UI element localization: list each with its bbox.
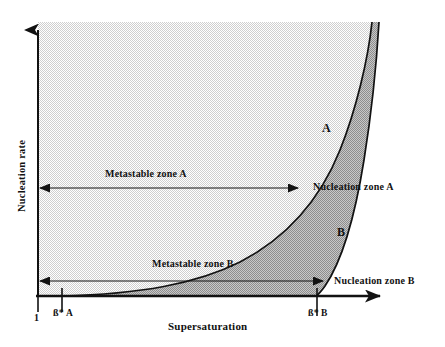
beta-star-a-symbol: ß* <box>53 307 64 318</box>
y-axis-title: Nucleation rate <box>16 140 27 212</box>
nucleation-rate-chart <box>0 0 445 347</box>
figure-container: Nucleation rate Supersaturation Metastab… <box>0 0 445 347</box>
beta-star-b-subscript: B <box>319 308 328 318</box>
curve-b-label: B <box>337 225 345 240</box>
xtick-beta-star-a-label: ß*A <box>53 307 73 318</box>
beta-star-a-subscript: A <box>64 308 73 318</box>
beta-star-b-symbol: ß* <box>308 307 319 318</box>
xtick-beta-star-b-label: ß*B <box>308 307 328 318</box>
x-axis-title: Supersaturation <box>168 320 247 332</box>
curve-a-label: A <box>322 121 331 136</box>
nucleation-zone-b-label: Nucleation zone B <box>334 275 415 286</box>
metastable-zone-a-label: Metastable zone A <box>105 168 187 179</box>
nucleation-zone-a-label: Nucleation zone A <box>313 181 394 192</box>
metastable-zone-b-label: Metastable zone B <box>152 258 234 269</box>
xtick-origin-label: 1 <box>34 312 39 323</box>
